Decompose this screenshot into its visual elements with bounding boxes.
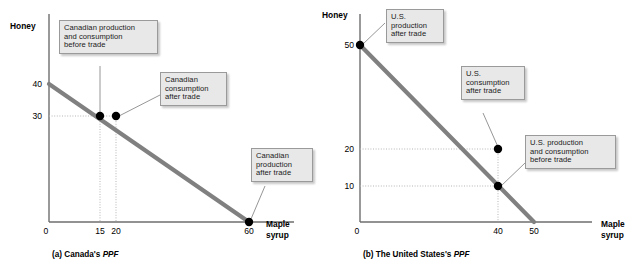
us-caption-emphasis: PPF [454,250,470,259]
canada-point-before-trade [96,112,104,120]
callout-line: after trade [165,93,222,102]
canada-xtick-20: 20 [106,226,126,236]
us-xtick-40: 40 [488,226,508,236]
leader-us-consumption-after [483,113,498,147]
callout-line: after trade [256,169,308,178]
canada-ytick-40: 40 [22,79,42,89]
callout-canadian-consumption-after-trade: Canadian consumption after trade [160,72,227,106]
canada-caption-emphasis: PPF [103,250,119,259]
us-y-axis-title: Honey [322,11,348,21]
us-caption-prefix: (b) The United States's [363,250,454,259]
us-xtick-50: 50 [524,226,544,236]
leader-production-after-a [251,186,265,219]
callout-us-production-after-trade: U.S. production after trade [386,9,444,43]
leader-us-before-trade [501,163,525,186]
callout-line: before trade [530,156,611,165]
callout-us-production-and-consumption-before-trade: U.S. production and consumption before t… [525,135,616,169]
us-ytick-20: 20 [334,144,354,154]
us-ytick-10: 10 [334,181,354,191]
canada-y-axis-title: Honey [10,22,36,32]
canada-ytick-30: 30 [22,111,42,121]
us-point-production-after-trade [356,41,364,49]
canada-caption: (a) Canada's PPF [52,250,119,259]
callout-line: after trade [391,30,439,39]
callout-canadian-production-and-consumption-before-trade: Canadian production and consumption befo… [59,20,158,54]
callout-line: before trade [64,41,153,50]
panel-canada-ppf: Honey Maple syrup 40 30 0 15 20 60 Canad… [0,0,320,276]
us-point-consumption-after-trade [494,145,502,153]
us-origin-label: 0 [347,226,367,236]
canada-x-axis-title-line1: Maple [266,220,290,230]
callout-line: after trade [466,87,520,96]
leader-consumption-after-a [119,95,160,116]
canada-point-production-after-trade [245,218,253,226]
canada-origin-label: 0 [36,226,56,236]
us-x-axis-title-line1: Maple [601,220,625,230]
us-caption: (b) The United States's PPF [363,250,470,259]
us-ytick-50: 50 [334,40,354,50]
callout-canadian-production-after-trade: Canadian production after trade [251,148,313,182]
canada-xtick-60: 60 [239,226,259,236]
canada-x-axis-title-line2: syrup [266,231,289,241]
callout-us-consumption-after-trade: U.S. consumption after trade [461,66,525,100]
canada-point-consumption-after-trade [112,112,120,120]
leader-us-production-after [363,23,385,44]
us-x-axis-title-line2: syrup [601,231,624,241]
canada-caption-prefix: (a) Canada's [52,250,103,259]
us-point-before-trade [494,182,502,190]
panel-united-states-ppf: Honey Maple syrup 50 20 10 0 40 50 U.S. … [320,0,640,276]
